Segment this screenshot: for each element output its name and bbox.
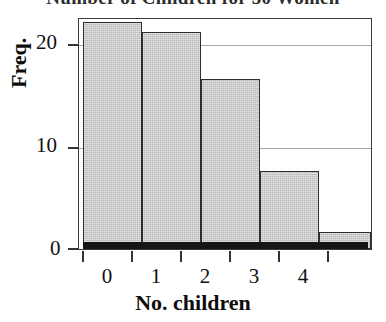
bar-2	[201, 79, 260, 249]
y-tick-mark-0	[68, 248, 78, 250]
x-tick-label-4: 4	[283, 264, 323, 289]
bar-0	[83, 22, 142, 249]
y-tick-label-20: 20	[36, 30, 57, 55]
y-tick-mark-10	[68, 147, 78, 149]
baseline-band	[83, 242, 368, 249]
x-tick-label-1: 1	[136, 264, 176, 289]
x-tick-mark-b0	[82, 251, 84, 262]
x-tick-mark-b1	[131, 251, 133, 262]
y-axis-title: Freq.	[6, 38, 32, 88]
x-tick-label-3: 3	[234, 264, 274, 289]
x-tick-label-2: 2	[185, 264, 225, 289]
y-tick-label-0: 0	[50, 236, 61, 261]
bar-3	[260, 171, 319, 249]
x-tick-mark-b2	[180, 251, 182, 262]
x-tick-mark-b5	[327, 251, 329, 262]
plot-area	[79, 19, 371, 249]
bar-1	[142, 32, 201, 249]
x-tick-mark-b4	[278, 251, 280, 262]
x-tick-mark-b3	[229, 251, 231, 262]
x-tick-label-0: 0	[87, 264, 127, 289]
chart-title: Number of Children for 50 Women	[0, 0, 386, 9]
plot-frame	[78, 18, 372, 250]
histogram-figure: Number of Children for 50 Women Freq. No…	[0, 0, 386, 322]
x-axis-title: No. children	[0, 290, 386, 316]
y-tick-label-10: 10	[36, 133, 57, 158]
y-tick-mark-20	[68, 44, 78, 46]
